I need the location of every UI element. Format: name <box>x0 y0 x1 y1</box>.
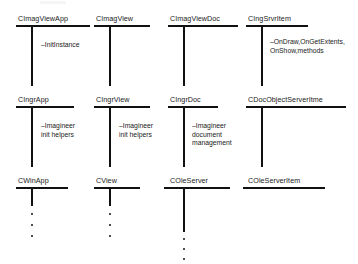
annotation-ondraw-methods: –OnDraw,OnGetExtents, OnShow,methods <box>270 38 345 55</box>
annotation-imagineer-init-helpers-view: –Imagineer init helpers <box>119 122 153 139</box>
node-label-cwinapp: CWinApp <box>18 176 49 185</box>
stem-cimagviewapp <box>31 25 33 86</box>
node-label-cimagview: CImagView <box>96 14 133 23</box>
node-rule-coleserveritem <box>243 187 325 189</box>
node-rule-cingrapp <box>16 106 74 108</box>
node-rule-cwinapp <box>16 187 68 189</box>
node-rule-cingrview <box>94 106 150 108</box>
stem-cdocobjectserveritme <box>261 106 263 167</box>
node-label-cimagviewapp: CImagViewApp <box>18 14 68 23</box>
class-hierarchy-diagram: CImagViewApp –InitInstance CIngrApp –Ima… <box>0 0 358 264</box>
node-rule-cingrdoc <box>168 106 218 108</box>
stem-cimagviewdoc <box>183 25 185 86</box>
node-rule-cimagview <box>94 25 150 27</box>
stem-cingrdoc <box>183 106 185 167</box>
annotation-initinstance: –InitInstance <box>41 41 80 50</box>
node-label-cview: CView <box>96 176 117 185</box>
node-rule-cimagviewdoc <box>168 25 238 27</box>
node-rule-cimagviewapp <box>16 25 90 27</box>
node-label-cimagviewdoc: CImagViewDoc <box>170 14 220 23</box>
node-rule-coleserver <box>164 187 230 189</box>
node-label-cdocobjectserveritme: CDocObjectServerItme <box>248 95 323 104</box>
stem-cwinapp <box>31 187 33 206</box>
stem-cingrapp <box>31 106 33 167</box>
stem-coleserver <box>183 187 185 232</box>
annotation-imagineer-init-helpers-app: –Imagineer init helpers <box>41 122 75 139</box>
stem-cview <box>109 187 111 206</box>
annotation-imagineer-document-management: –Imagineer document management <box>192 122 232 148</box>
node-label-cingrapp: CIngrApp <box>18 95 49 104</box>
node-label-coleserveritem: COleServerItem <box>248 176 300 185</box>
stem-cingrview <box>109 106 111 167</box>
node-rule-cingsrvritem <box>246 25 308 27</box>
node-label-cingrdoc: CIngrDoc <box>170 95 201 104</box>
node-rule-cview <box>94 187 140 189</box>
node-label-cingsrvritem: CIngSrvrItem <box>248 14 291 23</box>
scan-artifact <box>40 1 66 4</box>
stem-cingsrvritem <box>261 25 263 86</box>
node-label-cingrview: CIngrView <box>96 95 129 104</box>
stem-cimagview <box>109 25 111 86</box>
node-label-coleserver: COleServer <box>170 176 208 185</box>
